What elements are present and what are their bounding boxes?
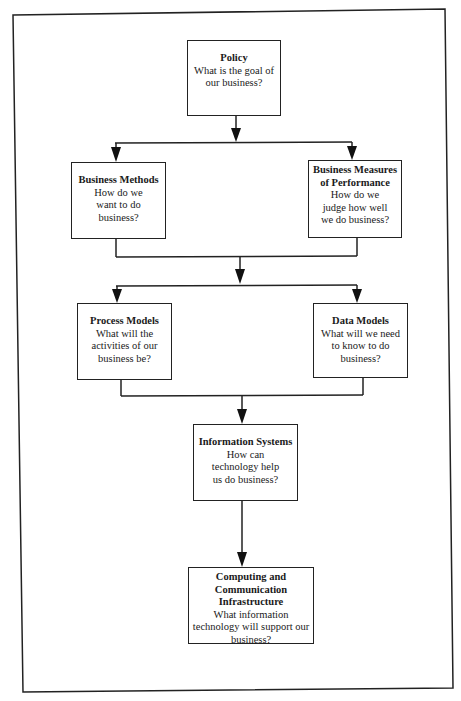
- node-question: How do we judge how well we do business?: [309, 189, 401, 227]
- node-title: Information Systems: [194, 436, 297, 449]
- node-question: What will we need to know to do business…: [314, 328, 407, 366]
- node-question: How can technology help us do business?: [194, 449, 297, 487]
- node-question: What will the activities of our business…: [78, 328, 171, 366]
- node-title: Business Methods: [72, 174, 165, 187]
- node-policy: Policy What is the goal of our business?: [187, 40, 281, 116]
- node-process-models: Process Models What will the activities …: [77, 303, 172, 380]
- node-question: What information technology will support…: [189, 609, 313, 647]
- node-business-methods: Business Methods How do we want to do bu…: [71, 162, 166, 239]
- node-question: What is the goal of our business?: [188, 65, 280, 90]
- node-title: Computing and Communication Infrastructu…: [189, 571, 313, 609]
- node-computing-infrastructure: Computing and Communication Infrastructu…: [188, 567, 314, 644]
- node-title: Process Models: [78, 315, 171, 328]
- node-information-systems: Information Systems How can technology h…: [193, 424, 298, 501]
- node-title: Business Measures of Performance: [309, 164, 401, 189]
- node-business-measures: Business Measures of Performance How do …: [308, 160, 402, 238]
- node-title: Policy: [188, 52, 280, 65]
- node-question: How do we want to do business?: [72, 187, 165, 225]
- node-title: Data Models: [314, 315, 407, 328]
- node-data-models: Data Models What will we need to know to…: [313, 303, 408, 378]
